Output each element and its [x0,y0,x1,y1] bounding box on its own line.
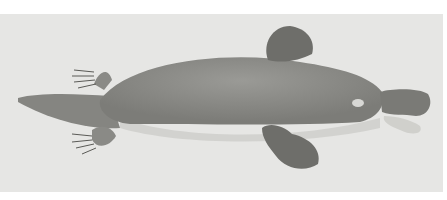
lower-bill [384,116,421,133]
bill [380,89,430,116]
claws-top [72,70,96,88]
foot-hind-bottom [92,127,116,146]
foot-hind-top [94,72,112,90]
foot-front-top [266,26,313,62]
body [100,57,383,124]
platypus-illustration [0,0,447,200]
illustration-frame [0,0,447,200]
eye-patch [352,99,364,107]
